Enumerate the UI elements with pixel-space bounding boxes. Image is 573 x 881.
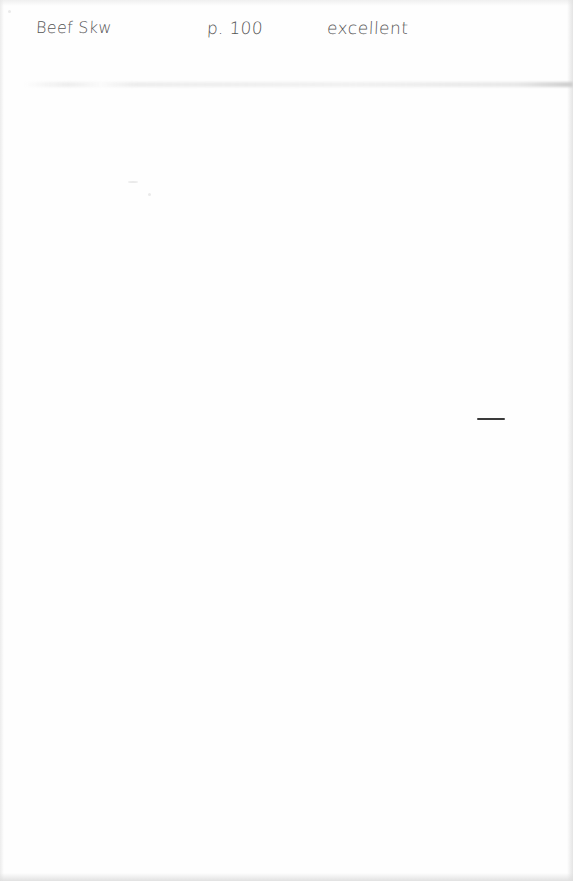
- paper-speck: [128, 181, 138, 183]
- entry-rating: excellent: [326, 18, 409, 38]
- scan-edge-top: [0, 0, 573, 6]
- paper-speck: [148, 193, 151, 196]
- bleed-through-line: [24, 82, 573, 87]
- scanned-page: Beef Skw p. 100 excellent: [0, 0, 573, 881]
- scan-edge-left: [0, 0, 4, 881]
- entry-item-name: Beef Skw: [36, 18, 113, 37]
- paper-speck: [8, 10, 11, 13]
- scan-edge-bottom: [0, 873, 573, 881]
- pen-dash-mark: [477, 418, 505, 420]
- entry-page-reference: p. 100: [206, 18, 263, 38]
- scan-edge-right: [567, 0, 573, 881]
